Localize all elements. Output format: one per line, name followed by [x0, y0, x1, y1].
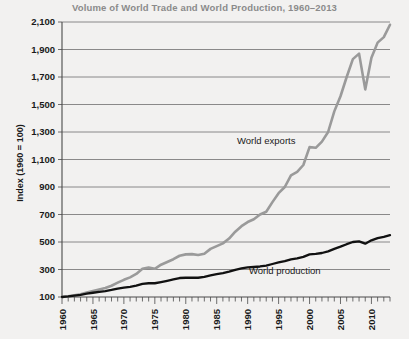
- y-tick-label: 1,500: [31, 99, 55, 110]
- x-tick-label: 1990: [242, 309, 253, 330]
- series-annotation-world-production: World production: [249, 265, 321, 276]
- x-tick-label: 1960: [57, 309, 68, 330]
- series-line-world-production: [62, 235, 390, 297]
- y-tick-label: 1,900: [31, 44, 55, 55]
- chart-plot: 1003005007009001,1001,3001,5001,7001,900…: [0, 0, 409, 339]
- chart-container: Volume of World Trade and World Producti…: [0, 0, 409, 339]
- y-tick-label: 300: [39, 264, 55, 275]
- series-annotation-world-exports: World exports: [237, 135, 296, 146]
- x-tick-label: 1970: [118, 309, 129, 330]
- y-tick-label: 900: [39, 181, 55, 192]
- x-tick-label: 1965: [88, 308, 99, 330]
- series-line-world-exports: [62, 25, 390, 297]
- x-tick-label: 1995: [273, 308, 284, 330]
- x-tick-label: 2005: [335, 308, 346, 330]
- y-tick-label: 1,700: [31, 71, 55, 82]
- y-tick-label: 2,100: [31, 16, 55, 27]
- x-tick-label: 1985: [211, 308, 222, 330]
- x-tick-label: 1975: [149, 308, 160, 330]
- x-tick-label: 1980: [180, 309, 191, 330]
- x-tick-label: 2000: [304, 309, 315, 330]
- y-tick-label: 1,100: [31, 154, 55, 165]
- y-tick-label: 700: [39, 209, 55, 220]
- y-tick-label: 1,300: [31, 126, 55, 137]
- y-tick-label: 100: [39, 291, 55, 302]
- x-tick-label: 2010: [366, 309, 377, 330]
- y-tick-label: 500: [39, 236, 55, 247]
